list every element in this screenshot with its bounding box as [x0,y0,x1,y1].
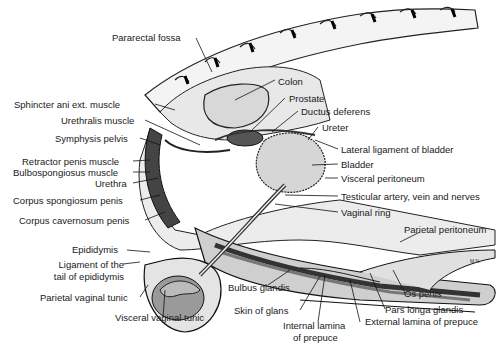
label-vaginal-ring: Vaginal ring [341,207,390,218]
label-bulbospongiosus: Bulbospongiosus muscle [13,167,118,178]
label-prostate: Prostate [289,93,324,104]
label-pararectal-fossa: Pararectal fossa [112,32,181,43]
label-visceral-vaginal-tunic: Visceral vaginal tunic [115,312,204,323]
label-colon: Colon [278,76,303,87]
artist-signature: M.N. [470,258,481,264]
label-corpus-spongiosum: Corpus spongiosum penis [13,195,123,206]
label-internal-lamina-line2: of prepuce [293,332,338,343]
label-epididymis: Epididymis [72,244,118,255]
label-bladder: Bladder [341,159,374,170]
label-visceral-peritoneum: Visceral peritoneum [341,173,425,184]
label-lateral-ligament: Lateral ligament of bladder [341,144,454,155]
label-urethra: Urethra [95,178,127,189]
label-corpus-cavernosum: Corpus cavernosum penis [19,215,129,226]
label-symphysis: Symphysis pelvis [55,133,128,144]
label-retractor-penis: Retractor penis muscle [22,156,119,167]
label-urethralis: Urethralis muscle [61,115,134,126]
label-os-penis: Os penis [404,288,442,299]
label-internal-lamina-line1: Internal lamina [283,320,345,331]
label-pars-longa: Pars longa glandis [385,304,463,315]
label-bulbus-glandis: Bulbus glandis [228,282,290,293]
label-testicular-artery: Testicular artery, vein and nerves [341,191,480,202]
label-skin-of-glans: Skin of glans [234,305,288,316]
label-parietal-peritoneum: Parietal peritoneum [404,224,486,235]
label-parietal-vaginal-tunic: Parietal vaginal tunic [40,292,128,303]
label-ureter: Ureter [322,122,348,133]
bladder [256,133,325,192]
label-ductus-deferens: Ductus deferens [301,106,370,117]
label-ligament-tail-line1: Ligament of the [44,259,124,270]
anatomy-diagram: Pararectal fossa Colon Prostate Ductus d… [0,0,503,349]
label-ligament-tail-line2: tail of epididymis [34,271,124,282]
label-external-lamina: External lamina of prepuce [365,316,478,327]
label-sphincter-ani: Sphincter ani ext. muscle [14,99,120,110]
